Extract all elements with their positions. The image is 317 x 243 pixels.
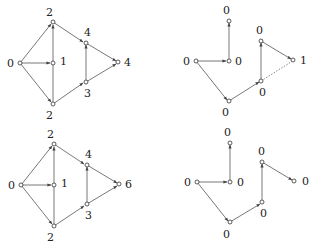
node bbox=[52, 142, 56, 146]
node bbox=[51, 61, 55, 65]
node-label: 3 bbox=[84, 87, 91, 100]
node bbox=[228, 141, 232, 145]
edge bbox=[196, 61, 227, 100]
node bbox=[116, 60, 120, 64]
node bbox=[19, 183, 23, 187]
node bbox=[227, 19, 231, 23]
node-label: 0 bbox=[302, 175, 309, 188]
node-label: 4 bbox=[84, 26, 91, 39]
node-label: 1 bbox=[60, 55, 67, 68]
edge bbox=[21, 146, 52, 185]
node-label: 2 bbox=[46, 6, 53, 19]
node bbox=[52, 224, 56, 228]
graph-top-right: 0 0 0 0 0 0 1 bbox=[183, 4, 307, 119]
node-label: 0 bbox=[183, 55, 190, 68]
edge-dotted bbox=[261, 62, 291, 81]
node bbox=[84, 80, 88, 84]
node bbox=[260, 200, 264, 204]
node-label: 1 bbox=[61, 177, 68, 190]
edge bbox=[20, 63, 51, 102]
node bbox=[52, 183, 56, 187]
node-label: 0 bbox=[235, 55, 242, 68]
node bbox=[259, 79, 263, 83]
graph-bottom-left: 0 2 1 2 4 3 6 bbox=[8, 128, 132, 243]
edge bbox=[230, 204, 260, 222]
node-label: 2 bbox=[47, 231, 54, 243]
diagram-canvas: 0 2 1 2 4 3 4 0 0 0 0 0 0 1 bbox=[0, 0, 317, 243]
edge bbox=[262, 162, 292, 180]
edge bbox=[53, 22, 83, 42]
edge bbox=[86, 43, 116, 61]
node-label: 4 bbox=[124, 56, 131, 69]
node bbox=[51, 102, 55, 106]
node-label: 0 bbox=[258, 145, 265, 158]
edge bbox=[54, 206, 84, 226]
node-label: 6 bbox=[125, 178, 132, 191]
node-label: 0 bbox=[260, 207, 267, 220]
edge bbox=[229, 82, 259, 101]
edge bbox=[20, 24, 51, 63]
node bbox=[227, 59, 231, 63]
node bbox=[291, 58, 295, 62]
node bbox=[194, 59, 198, 63]
node-label: 0 bbox=[7, 57, 14, 70]
node-label: 0 bbox=[256, 24, 263, 37]
node bbox=[292, 179, 296, 183]
node bbox=[195, 180, 199, 184]
node-label: 3 bbox=[85, 209, 92, 222]
node bbox=[228, 220, 232, 224]
edge bbox=[261, 41, 291, 59]
node bbox=[227, 99, 231, 103]
node bbox=[18, 61, 22, 65]
node bbox=[84, 41, 88, 45]
edge bbox=[54, 144, 84, 164]
node-label: 0 bbox=[237, 176, 244, 189]
edge bbox=[86, 64, 116, 82]
node bbox=[51, 20, 55, 24]
node bbox=[259, 39, 263, 43]
node-label: 0 bbox=[224, 126, 231, 139]
node-label: 2 bbox=[47, 128, 54, 141]
node bbox=[260, 160, 264, 164]
node bbox=[85, 202, 89, 206]
node bbox=[85, 163, 89, 167]
edge bbox=[87, 186, 117, 204]
edge bbox=[87, 165, 117, 183]
node-label: 0 bbox=[8, 179, 15, 192]
node-label: 2 bbox=[46, 109, 53, 122]
edge bbox=[21, 185, 52, 224]
node-label: 0 bbox=[223, 4, 230, 17]
node bbox=[117, 182, 121, 186]
node-label: 1 bbox=[300, 54, 307, 67]
node bbox=[228, 180, 232, 184]
node-label: 0 bbox=[223, 228, 230, 241]
node-label: 0 bbox=[222, 106, 229, 119]
node-label: 0 bbox=[259, 86, 266, 99]
graph-top-left: 0 2 1 2 4 3 4 bbox=[7, 6, 131, 122]
node-label: 4 bbox=[85, 148, 92, 161]
edge bbox=[53, 83, 83, 104]
edge bbox=[197, 182, 228, 221]
graph-bottom-right: 0 0 0 0 0 0 0 bbox=[184, 126, 309, 241]
node-label: 0 bbox=[184, 176, 191, 189]
